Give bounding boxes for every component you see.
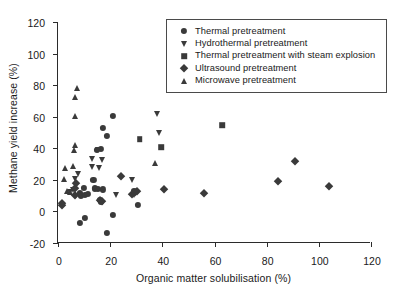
legend-marker-diamond-icon <box>180 64 188 72</box>
y-tick-label: 40 <box>33 143 45 155</box>
data-point <box>160 185 168 193</box>
data-point <box>110 212 116 218</box>
x-tick-label: 0 <box>56 255 62 267</box>
data-point <box>85 191 91 197</box>
data-point <box>220 122 226 128</box>
legend-marker-icon <box>173 62 195 74</box>
data-point <box>129 177 135 183</box>
data-point <box>71 147 77 153</box>
y-tick-label: 60 <box>33 112 45 124</box>
data-point <box>152 160 158 166</box>
x-tick-label: 60 <box>210 255 222 267</box>
legend-label: Microwave pretreatment <box>195 76 296 85</box>
x-tick-label: 40 <box>157 255 169 267</box>
legend-marker-icon <box>173 50 195 62</box>
data-point <box>90 177 96 183</box>
x-tick: 0 <box>58 242 59 247</box>
data-point <box>61 176 67 182</box>
legend-marker-icon <box>173 75 195 87</box>
legend-item: Thermal pretreatment with steam explosio… <box>173 50 380 62</box>
data-point <box>200 189 208 197</box>
chart-legend: Thermal pretreatmentHydrothermal pretrea… <box>166 19 387 93</box>
legend-marker-icon <box>173 25 195 37</box>
data-point <box>113 192 119 198</box>
y-tick-label: 20 <box>33 175 45 187</box>
legend-label: Thermal pretreatment <box>195 27 285 36</box>
legend-item: Thermal pretreatment <box>173 25 380 37</box>
x-tick-label: 100 <box>311 255 329 267</box>
data-point <box>137 137 143 143</box>
legend-marker-circle-icon <box>181 28 187 34</box>
x-tick: 80 <box>267 242 268 247</box>
x-tick: 120 <box>371 242 372 247</box>
x-tick: 40 <box>162 242 163 247</box>
data-point <box>72 113 78 119</box>
data-point <box>103 230 109 236</box>
x-axis-label: Organic matter solubilisation (%) <box>57 272 370 284</box>
data-point <box>62 165 68 171</box>
x-tick-label: 20 <box>105 255 117 267</box>
legend-marker-square-icon <box>181 53 187 59</box>
legend-item: Hydrothermal pretreatment <box>173 37 380 49</box>
data-point <box>96 165 102 171</box>
legend-marker-triangle-up-icon <box>181 78 187 84</box>
data-point <box>89 164 95 170</box>
data-point <box>325 182 333 190</box>
legend-marker-triangle-down-icon <box>181 41 187 47</box>
data-point <box>274 177 282 185</box>
data-point <box>99 157 105 163</box>
data-point <box>158 145 164 151</box>
y-tick-label: 80 <box>33 80 45 92</box>
legend-marker-icon <box>173 38 195 50</box>
data-point <box>67 189 73 195</box>
data-point <box>156 130 162 136</box>
y-axis-label: Methane yield increase (%) <box>2 6 24 250</box>
legend-label: Thermal pretreatment with steam explosio… <box>195 51 375 60</box>
legend-item: Microwave pretreatment <box>173 75 380 87</box>
y-tick-label: -20 <box>30 238 45 250</box>
x-tick-label: 120 <box>363 255 381 267</box>
legend-label: Hydrothermal pretreatment <box>195 39 307 48</box>
data-point <box>100 125 106 131</box>
data-point <box>110 113 116 119</box>
scatter-chart-figure: Methane yield increase (%) Organic matte… <box>0 0 409 300</box>
x-tick: 20 <box>110 242 111 247</box>
data-point <box>154 111 160 117</box>
x-tick: 60 <box>215 242 216 247</box>
y-tick-label: 0 <box>39 206 45 218</box>
y-tick-label: 100 <box>27 49 45 61</box>
y-tick-label: 120 <box>27 17 45 29</box>
data-point <box>82 215 88 221</box>
data-point <box>291 157 299 165</box>
data-point <box>72 94 78 100</box>
legend-item: Ultrasound pretreatment <box>173 62 380 74</box>
data-point <box>100 186 106 192</box>
data-point <box>74 85 80 91</box>
data-point <box>95 147 101 153</box>
data-point <box>77 220 83 226</box>
data-point <box>70 163 76 169</box>
data-point <box>89 156 95 162</box>
legend-label: Ultrasound pretreatment <box>195 64 296 73</box>
x-tick: 100 <box>319 242 320 247</box>
data-point <box>103 133 109 139</box>
data-point <box>117 172 125 180</box>
x-tick-label: 80 <box>262 255 274 267</box>
data-point <box>134 202 140 208</box>
